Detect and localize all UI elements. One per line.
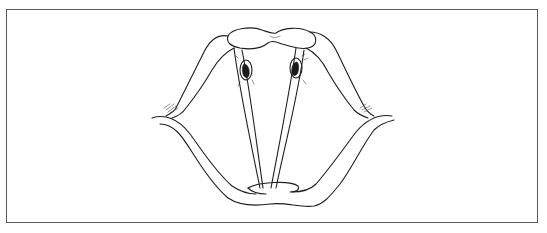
arytenoid-cartilages: [228, 28, 316, 49]
right-aryepiglottic-fold: [306, 32, 374, 118]
outer-laryngeal-wall: [152, 116, 394, 207]
larynx-illustration: [0, 0, 547, 233]
left-aryepiglottic-fold: [164, 36, 234, 118]
anterior-commissure: [248, 182, 299, 194]
